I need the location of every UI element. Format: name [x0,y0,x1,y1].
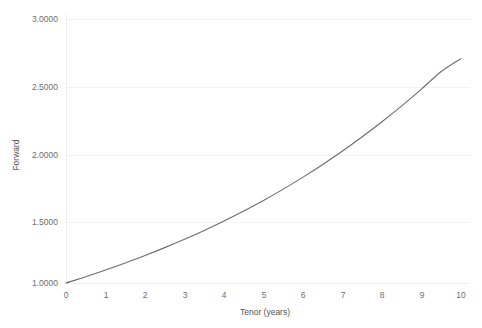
y-tick-label-1: 1.5000 [32,217,58,227]
axes [66,14,470,283]
y-axis-tick-labels: 1.0000 1.5000 2.0000 2.5000 3.0000 [32,14,58,288]
forward-curve-line [66,59,461,283]
x-axis-tick-labels: 0 1 2 3 4 5 6 7 8 9 10 [64,290,466,300]
x-tick-label-2: 2 [143,290,148,300]
x-tick-label-8: 8 [380,290,385,300]
x-tick-label-6: 6 [301,290,306,300]
x-tick-label-9: 9 [420,290,425,300]
y-tick-label-4: 3.0000 [32,14,58,24]
y-tick-label-0: 1.0000 [32,278,58,288]
x-axis-title: Tenor (years) [240,307,290,317]
x-tick-label-3: 3 [183,290,188,300]
x-tick-label-1: 1 [104,290,109,300]
forward-curve-chart: 1.0000 1.5000 2.0000 2.5000 3.0000 0 1 2… [0,0,482,328]
x-tick-label-0: 0 [64,290,69,300]
y-tick-label-2: 2.0000 [32,150,58,160]
y-tick-label-3: 2.5000 [32,82,58,92]
x-tick-label-5: 5 [262,290,267,300]
x-tick-label-7: 7 [341,290,346,300]
x-tick-label-10: 10 [456,290,466,300]
x-tick-label-4: 4 [222,290,227,300]
chart-canvas: 1.0000 1.5000 2.0000 2.5000 3.0000 0 1 2… [0,0,482,328]
y-axis-title: Forward [11,139,21,170]
gridlines [66,19,470,222]
